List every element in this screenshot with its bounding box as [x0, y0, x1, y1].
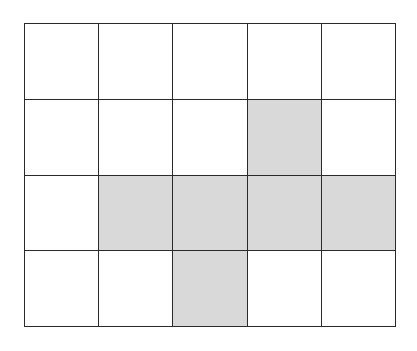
grid-cell-empty	[25, 24, 99, 100]
grid-cell-empty	[322, 24, 396, 100]
grid-cell-empty	[322, 100, 396, 176]
grid-cell-empty	[173, 24, 247, 100]
grid-cell-shaded	[248, 100, 322, 176]
grid-cell-shaded	[99, 176, 173, 252]
grid-cell-empty	[99, 100, 173, 176]
grid-cell-empty	[25, 100, 99, 176]
grid-cell-empty	[25, 176, 99, 252]
grid-cell-empty	[99, 251, 173, 327]
grid-cell-empty	[322, 251, 396, 327]
grid-cell-shaded	[322, 176, 396, 252]
grid-cell-shaded	[173, 251, 247, 327]
grid-cell-empty	[99, 24, 173, 100]
grid-cell-empty	[248, 251, 322, 327]
grid-cell-shaded	[173, 176, 247, 252]
shaded-grid-diagram	[24, 23, 396, 327]
grid-cell-empty	[25, 251, 99, 327]
grid-cell-shaded	[248, 176, 322, 252]
grid-cell-empty	[248, 24, 322, 100]
grid-cell-empty	[173, 100, 247, 176]
